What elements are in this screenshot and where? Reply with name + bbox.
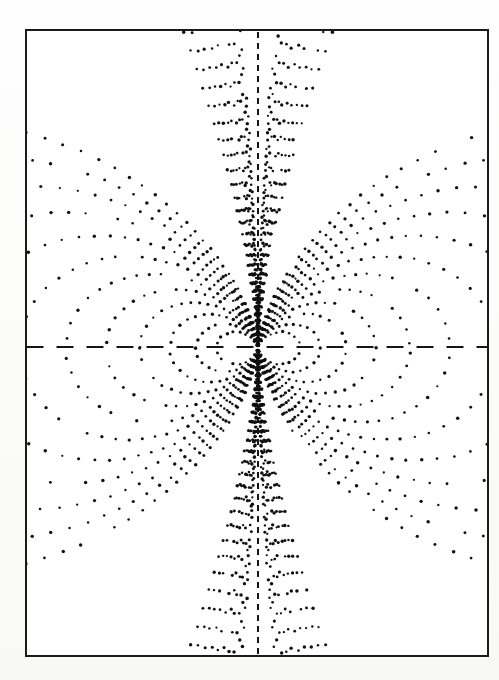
dipole-field-plot-canvas (0, 0, 499, 680)
figure-page (0, 0, 499, 680)
